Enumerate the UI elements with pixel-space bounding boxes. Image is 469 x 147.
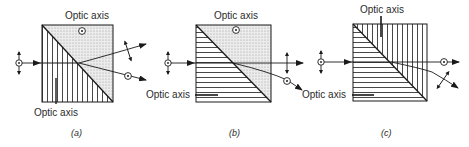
output-polarization-dot-icon [284,78,291,85]
optic-axis-label-top-a: Optic axis [65,10,109,21]
optic-axis-label-side-c: Optic axis [302,89,346,100]
optic-axis-dot-icon [79,28,86,35]
polarizing-prism-diagram: Optic axis Optic axis (a) Optic axis Opt… [0,0,469,147]
optic-axis-label-top-b: Optic axis [214,10,258,21]
panel-a: Optic axis Optic axis (a) [16,10,146,138]
input-polarization-icon [165,51,171,75]
output-polarization-inplane-icon [123,40,134,62]
output-polarization-dot-icon [441,59,448,66]
caption-b: (b) [229,128,240,138]
optic-axis-label-bottom-a: Optic axis [34,107,78,118]
optic-axis-label-side-b: Optic axis [146,89,190,100]
caption-c: (c) [381,128,392,138]
optic-axis-label-top-c: Optic axis [360,4,404,15]
caption-a: (a) [71,128,82,138]
input-polarization-icon [16,51,22,75]
input-polarization-icon [318,50,324,74]
output-polarization-dot-icon [125,73,132,80]
panel-b: Optic axis Optic axis (b) [146,10,303,138]
optic-axis-dot-icon [233,27,240,34]
output-polarization-inplane-icon [435,70,451,90]
panel-c: Optic axis Optic axis (c) [302,4,459,138]
